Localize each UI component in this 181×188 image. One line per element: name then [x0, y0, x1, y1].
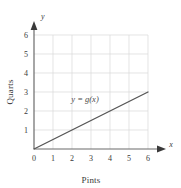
- x-tick-label-1: 1: [51, 154, 55, 163]
- y-tick-label-5: 5: [24, 50, 28, 59]
- y-tick-label-4: 4: [24, 69, 28, 78]
- function-annotation-label: y = g(x): [70, 94, 99, 104]
- x-tick-label-6: 6: [146, 154, 150, 163]
- x-tick-label-3: 3: [89, 154, 93, 163]
- y-tick-label-2: 2: [24, 107, 28, 116]
- x-tick-label-4: 4: [108, 154, 112, 163]
- x-axis-title: Pints: [81, 175, 100, 185]
- y-axis-title: Quarts: [5, 79, 15, 104]
- x-tick-label-5: 5: [127, 154, 131, 163]
- graph-figure: 6 5 4 3 2 1 0 1 2 3 4 5 6 y x y = g(x) P…: [0, 0, 181, 188]
- x-tick-label-2: 2: [70, 154, 74, 163]
- x-axis-variable-label: x: [168, 140, 173, 149]
- line-graph-svg: 6 5 4 3 2 1 0 1 2 3 4 5 6 y x y = g(x) P…: [0, 0, 181, 188]
- y-tick-label-6: 6: [24, 31, 28, 40]
- y-tick-label-3: 3: [24, 88, 28, 97]
- x-tick-label-0: 0: [32, 154, 36, 163]
- y-tick-label-1: 1: [24, 126, 28, 135]
- y-axis-variable-label: y: [40, 12, 45, 21]
